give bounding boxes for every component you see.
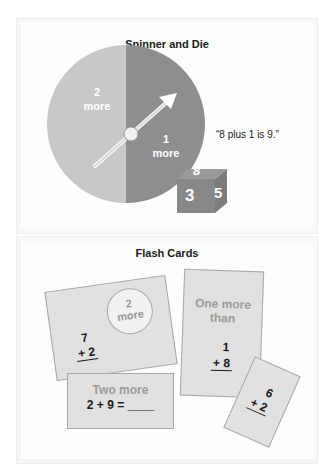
die-side-face: 5 (214, 184, 222, 201)
die-top-face: 8 (193, 163, 200, 178)
flash-card-two-more: Two more 2 + 9 = ____ (67, 373, 174, 429)
circle-badge: 2 more (104, 285, 156, 337)
flash-card-7-plus-2: 2 more 7 + 2 (44, 275, 177, 381)
flash-cards-section-title: Flash Cards (17, 247, 317, 259)
die-front-face: 3 (185, 186, 194, 206)
spinner-quote: “8 plus 1 is 9.” (216, 129, 279, 140)
